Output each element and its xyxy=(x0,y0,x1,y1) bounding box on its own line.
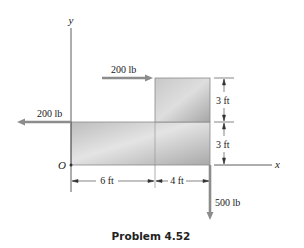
force-arrow-top-200lb xyxy=(102,75,153,82)
dimension-label-3ft-upper: 3 ft xyxy=(216,95,230,106)
problem-diagram: y x O 200 lb 200 lb 500 lb 6 ft 4 ft 3 f… xyxy=(0,0,304,248)
vertical-dimension xyxy=(214,78,234,164)
horizontal-dimension xyxy=(72,180,209,183)
dimension-label-6ft: 6 ft xyxy=(100,175,114,186)
lower-plate-section xyxy=(71,122,210,165)
force-label-top: 200 lb xyxy=(111,64,136,75)
l-shaped-plate xyxy=(71,78,210,165)
force-arrow-down-500lb xyxy=(207,165,214,220)
x-axis-label: x xyxy=(274,158,280,170)
origin-label: O xyxy=(58,159,66,171)
force-arrow-left-200lb xyxy=(17,119,71,126)
dimension-label-3ft-lower: 3 ft xyxy=(216,139,230,150)
figure-caption: Problem 4.52 xyxy=(112,230,191,242)
dimension-label-4ft: 4 ft xyxy=(170,175,184,186)
origin-point xyxy=(70,164,73,167)
y-axis-label: y xyxy=(68,14,74,26)
force-label-down: 500 lb xyxy=(215,197,240,208)
upper-plate-section xyxy=(155,78,210,122)
force-label-left: 200 lb xyxy=(37,108,62,119)
